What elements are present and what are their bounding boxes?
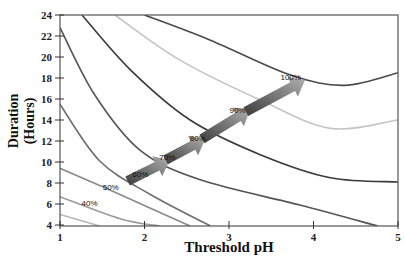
curve-label: 50% — [103, 183, 119, 192]
y-tick-label: 4 — [47, 219, 53, 231]
curve-label: 100% — [280, 73, 300, 82]
y-tick-label: 12 — [41, 135, 53, 147]
y-tick-label: 10 — [41, 156, 53, 168]
contour-line-90pct — [115, 15, 398, 129]
contour-chart: 40%50%60%70%80%90%100% 12345 46810121416… — [0, 0, 405, 257]
trend-arrows — [125, 77, 305, 185]
x-tick-label: 5 — [395, 231, 401, 243]
x-tick-label: 2 — [142, 231, 148, 243]
curve-label: 80% — [190, 134, 206, 143]
y-tick-label: 24 — [41, 9, 53, 21]
contour-line-50pct — [60, 168, 190, 226]
contour-line-80pct — [82, 15, 398, 182]
y-tick-label: 20 — [41, 51, 53, 63]
y-tick-label: 14 — [41, 114, 53, 126]
y-tick-label: 22 — [41, 30, 53, 42]
contour-line-100pct — [145, 15, 399, 85]
svg-text:(Hours): (Hours) — [22, 97, 38, 144]
y-tick-label: 6 — [47, 198, 53, 210]
curve-label: 40% — [82, 199, 98, 208]
y-axis-title: Duration (Hours) — [6, 94, 38, 149]
x-tick-label: 1 — [57, 231, 63, 243]
y-tick-label: 8 — [47, 177, 53, 189]
curve-label: 70% — [159, 153, 175, 162]
x-tick-label: 4 — [311, 231, 317, 243]
y-tick-label: 18 — [41, 72, 53, 84]
curve-label: 90% — [229, 106, 245, 115]
y-tick-label: 16 — [41, 93, 53, 105]
svg-text:Duration: Duration — [6, 94, 21, 149]
curve-labels: 40%50%60%70%80%90%100% — [82, 73, 301, 208]
x-axis-title: Threshold pH — [184, 239, 274, 255]
curve-label: 60% — [132, 170, 148, 179]
contour-line-30pct — [60, 215, 100, 227]
